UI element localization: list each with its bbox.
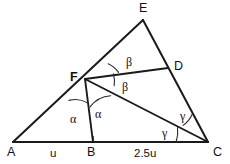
vertex-label-B: B <box>87 146 95 159</box>
vertex-label-E: E <box>139 2 147 15</box>
side-label-2-5u: 2.5u <box>134 148 156 160</box>
angle-label-gamma-upper: γ <box>180 110 185 122</box>
angle-label-alpha-right: α <box>95 108 101 120</box>
diagram-svg <box>0 0 230 164</box>
angle-label-beta-lower: β <box>122 81 128 93</box>
vertex-label-F: F <box>70 71 78 84</box>
cevian-FB <box>85 79 93 142</box>
arc-gamma-lower-icon <box>176 128 178 142</box>
angle-label-alpha-left: α <box>70 113 76 125</box>
cevian-FC <box>85 79 208 142</box>
arc-alpha-left-icon <box>69 100 88 103</box>
angle-label-beta-upper: β <box>126 56 132 68</box>
vertex-label-A: A <box>7 146 15 159</box>
side-EC <box>143 20 208 142</box>
arc-alpha-right-icon <box>90 96 111 107</box>
angle-label-gamma-lower: γ <box>162 127 167 139</box>
cevian-lines <box>85 68 208 142</box>
vertex-label-C: C <box>213 146 222 159</box>
triangle-outline <box>13 20 208 142</box>
cevian-FD <box>85 68 168 79</box>
arc-beta-upper-icon <box>108 64 118 73</box>
geometry-diagram-canvas: A B C D E F β β α α γ γ u 2.5u <box>0 0 230 164</box>
vertex-label-D: D <box>174 60 183 73</box>
arc-beta-lower-icon <box>114 74 115 86</box>
side-label-u: u <box>50 148 56 160</box>
